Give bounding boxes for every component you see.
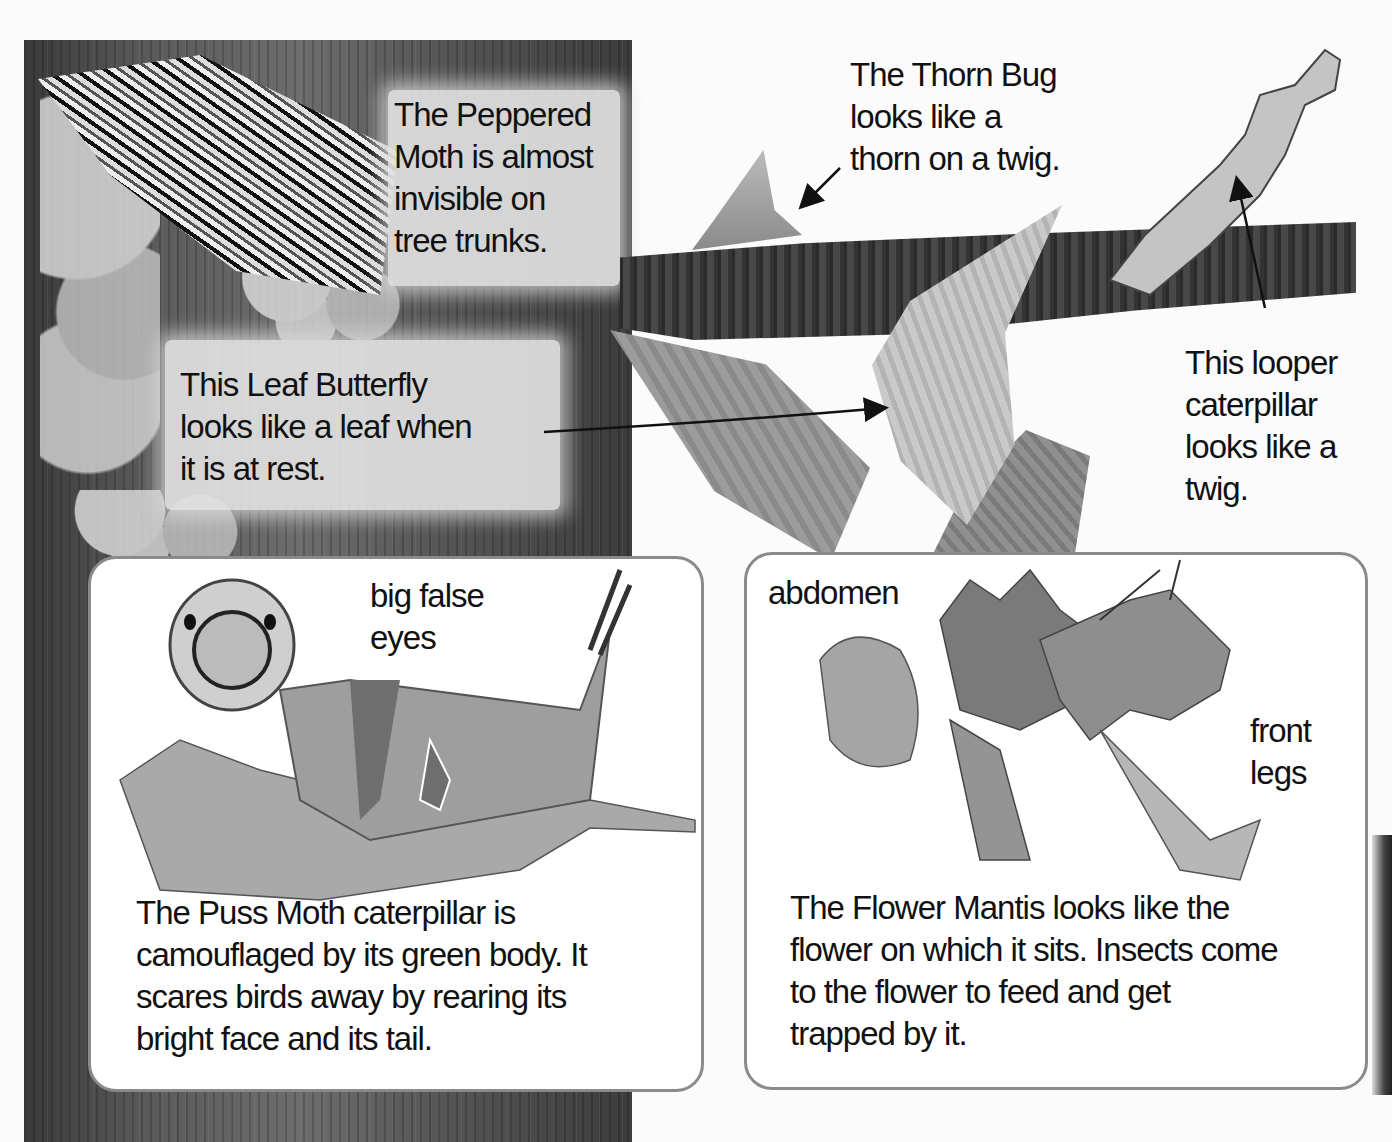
thorn-bug-arrow	[802, 168, 840, 206]
page-edge-shadow	[1372, 835, 1392, 1095]
caption-line: The Thorn Bug	[850, 54, 1060, 96]
leaf-butterfly-caption: This Leaf Butterfly looks like a leaf wh…	[180, 364, 472, 490]
looper-caption: This looper caterpillar looks like a twi…	[1185, 342, 1337, 510]
caption-line: caterpillar	[1185, 384, 1337, 426]
caption-line: it is at rest.	[180, 448, 472, 490]
caption-line: The Flower Mantis looks like the	[790, 887, 1278, 929]
caption-line: The Peppered	[394, 94, 593, 136]
caption-line: looks like a leaf when	[180, 406, 472, 448]
label-line: front	[1250, 710, 1311, 752]
caption-line: trapped by it.	[790, 1013, 1278, 1055]
thorn-bug-caption: The Thorn Bug looks like a thorn on a tw…	[850, 54, 1060, 180]
thorn-bug-illustration	[692, 150, 802, 250]
caption-line: flower on which it sits. Insects come	[790, 929, 1278, 971]
caption-line: invisible on	[394, 178, 593, 220]
caption-line: looks like a	[850, 96, 1060, 138]
leaf-illustration	[610, 330, 870, 560]
false-eyes-label: big false eyes	[370, 575, 484, 659]
label-line: eyes	[370, 617, 484, 659]
caption-line: scares birds away by rearing its	[136, 976, 587, 1018]
label-line: big false	[370, 575, 484, 617]
peppered-moth-caption: The Peppered Moth is almost invisible on…	[394, 94, 593, 262]
looper-caterpillar-illustration	[1110, 45, 1340, 295]
flower-mantis-caption: The Flower Mantis looks like the flower …	[790, 887, 1278, 1055]
caption-line: This looper	[1185, 342, 1337, 384]
caption-line: camouflaged by its green body. It	[136, 934, 587, 976]
caption-line: Moth is almost	[394, 136, 593, 178]
caption-line: to the flower to feed and get	[790, 971, 1278, 1013]
front-legs-label: front legs	[1250, 710, 1311, 794]
caption-line: thorn on a twig.	[850, 138, 1060, 180]
caption-line: bright face and its tail.	[136, 1018, 587, 1060]
caption-line: This Leaf Butterfly	[180, 364, 472, 406]
caption-line: looks like a	[1185, 426, 1337, 468]
caption-line: twig.	[1185, 468, 1337, 510]
caption-line: The Puss Moth caterpillar is	[136, 892, 587, 934]
abdomen-label: abdomen	[768, 572, 899, 614]
caption-line: tree trunks.	[394, 220, 593, 262]
label-line: legs	[1250, 752, 1311, 794]
puss-moth-caption: The Puss Moth caterpillar is camouflaged…	[136, 892, 587, 1060]
